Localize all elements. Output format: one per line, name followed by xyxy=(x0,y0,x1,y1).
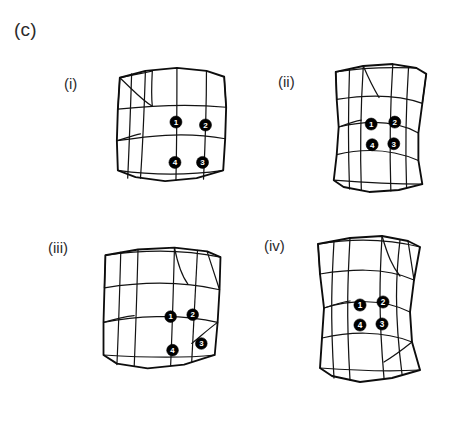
mesh-gridline xyxy=(104,283,219,289)
mesh-gridline xyxy=(120,78,152,107)
subpanel-label-iii: (iii) xyxy=(48,240,68,255)
node-number-label: 2 xyxy=(393,118,398,127)
mesh-diagram-iv: 1234 xyxy=(302,232,434,388)
mesh-gridline xyxy=(174,248,187,284)
mesh-diagram-ii: 1234 xyxy=(320,58,442,198)
mesh-svg-i: 1234 xyxy=(108,60,236,188)
node-number-label: 3 xyxy=(380,320,385,329)
node-marker-1: 1 xyxy=(354,299,366,311)
node-number-label: 3 xyxy=(392,140,397,149)
node-marker-2: 2 xyxy=(187,309,199,321)
mesh-gridline xyxy=(348,69,349,189)
node-number-label: 4 xyxy=(173,158,178,167)
mesh-gridline xyxy=(334,180,423,184)
mesh-svg-iv: 1234 xyxy=(302,232,434,388)
subpanel-label-i: (i) xyxy=(64,76,77,91)
node-marker-4: 4 xyxy=(366,139,378,151)
node-marker-3: 3 xyxy=(376,318,388,330)
mesh-gridline xyxy=(140,71,145,178)
mesh-gridline xyxy=(152,71,153,106)
node-marker-1: 1 xyxy=(365,118,377,130)
panel-label-c: (c) xyxy=(14,20,37,39)
mesh-gridline xyxy=(134,250,138,367)
node-number-label: 1 xyxy=(358,301,363,310)
node-number-label: 4 xyxy=(358,321,363,330)
mesh-gridline xyxy=(332,241,334,378)
mesh-gridline xyxy=(408,241,414,280)
node-marker-3: 3 xyxy=(197,156,209,168)
node-number-label: 2 xyxy=(203,121,208,130)
node-marker-2: 2 xyxy=(389,116,401,128)
mesh-gridline xyxy=(363,66,379,97)
node-marker-2: 2 xyxy=(377,296,389,308)
mesh-gridline xyxy=(117,252,121,364)
mesh-gridline xyxy=(348,238,350,380)
node-number-label: 4 xyxy=(370,141,375,150)
node-number-label: 4 xyxy=(170,346,175,355)
node-marker-1: 1 xyxy=(165,311,177,323)
mesh-gridline xyxy=(118,105,226,109)
node-number-label: 2 xyxy=(381,298,386,307)
node-marker-1: 1 xyxy=(170,116,182,128)
node-marker-3: 3 xyxy=(388,138,400,150)
node-number-label: 1 xyxy=(369,120,374,129)
node-marker-3: 3 xyxy=(195,338,207,350)
mesh-gridline xyxy=(104,355,215,357)
mesh-svg-ii: 1234 xyxy=(320,58,442,198)
node-marker-4: 4 xyxy=(354,319,366,331)
mesh-diagram-i: 1234 xyxy=(108,60,236,188)
mesh-outline xyxy=(104,248,221,369)
mesh-gridline xyxy=(384,342,412,362)
node-marker-4: 4 xyxy=(167,344,179,356)
mesh-gridline xyxy=(324,301,350,308)
node-marker-4: 4 xyxy=(169,156,181,168)
mesh-svg-iii: 1234 xyxy=(92,234,232,382)
node-number-label: 3 xyxy=(199,339,204,348)
node-number-label: 2 xyxy=(190,311,195,320)
node-number-label: 1 xyxy=(168,312,173,321)
subpanel-label-ii: (ii) xyxy=(278,74,295,89)
node-marker-2: 2 xyxy=(199,119,211,131)
subpanel-label-iv: (iv) xyxy=(264,238,285,253)
mesh-diagram-iii: 1234 xyxy=(92,234,232,382)
mesh-outline xyxy=(334,64,426,192)
mesh-gridline xyxy=(128,74,132,178)
node-number-label: 3 xyxy=(200,158,205,167)
mesh-gridline xyxy=(118,170,223,174)
figure-canvas: (c) (i) 1234 (ii) 1234 (iii) 1234 (iv) 1… xyxy=(0,0,472,421)
mesh-gridline xyxy=(117,134,141,141)
mesh-gridline xyxy=(361,66,364,190)
mesh-gridline xyxy=(320,368,420,371)
node-number-label: 1 xyxy=(174,118,179,127)
